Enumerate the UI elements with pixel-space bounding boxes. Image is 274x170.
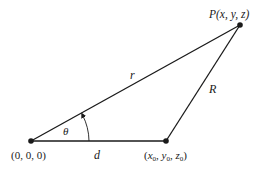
source-point [163,138,169,144]
angle-arc-icon [83,115,90,141]
segment-d-label: d [94,148,101,162]
origin-point [28,138,34,144]
segment-R [166,25,240,141]
source-label: (x0, y0, z0) [144,149,187,163]
segment-R-label: R [208,82,217,96]
field-point [237,22,243,28]
segment-r-label: r [130,68,135,82]
vector-geometry-diagram: (0, 0, 0) (x0, y0, z0) P(x, y, z) r R d … [0,0,274,170]
field-point-label: P(x, y, z) [208,8,249,21]
origin-label: (0, 0, 0) [11,149,46,162]
angle-theta-label: θ [63,125,69,137]
